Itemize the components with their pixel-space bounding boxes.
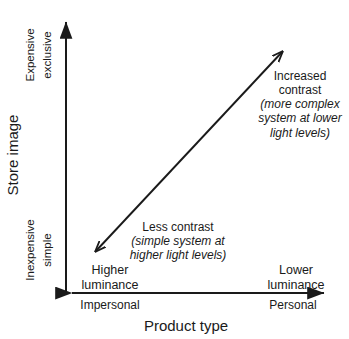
x-axis-tick-lower-luminance: Lower luminance bbox=[268, 263, 325, 293]
x-axis-tick-higher-luminance-line2: luminance bbox=[82, 278, 139, 293]
annotation-increased-contrast-line5: light levels) bbox=[258, 126, 341, 140]
y-axis-tick-inexpensive-line1: Inexpensive bbox=[24, 207, 38, 293]
annotation-increased-contrast-line3: (more complex bbox=[258, 97, 341, 111]
x-axis-tick-lower-luminance-line1: Lower bbox=[268, 263, 325, 278]
x-axis-title: Product type bbox=[144, 317, 228, 335]
x-axis-tick-lower-luminance-line2: luminance bbox=[268, 278, 325, 293]
y-axis-tick-expensive-line1: Expensive bbox=[24, 12, 38, 98]
annotation-less-contrast: Less contrast (simple system at higher l… bbox=[130, 220, 227, 262]
annotation-increased-contrast-line1: Increased bbox=[258, 69, 341, 83]
y-axis-tick-inexpensive-line2: simple bbox=[41, 207, 55, 293]
annotation-less-contrast-line2: (simple system at bbox=[130, 234, 227, 248]
annotation-less-contrast-line1: Less contrast bbox=[130, 220, 227, 234]
annotation-increased-contrast: Increased contrast (more complex system … bbox=[258, 69, 341, 140]
annotation-increased-contrast-line4: system at lower bbox=[258, 111, 341, 125]
annotation-increased-contrast-line2: contrast bbox=[258, 83, 341, 97]
y-axis-title: Store image bbox=[4, 95, 22, 215]
y-axis-tick-expensive-line2: exclusive bbox=[41, 12, 55, 98]
x-axis-tick-higher-luminance-line1: Higher bbox=[82, 263, 139, 278]
annotation-less-contrast-line3: higher light levels) bbox=[130, 248, 227, 262]
x-axis-tick-higher-luminance: Higher luminance bbox=[82, 263, 139, 293]
diagram-canvas: Store image Expensive exclusive Inexpens… bbox=[0, 0, 349, 339]
x-axis-tick-personal: Personal bbox=[269, 298, 316, 312]
x-axis-tick-impersonal: Impersonal bbox=[80, 298, 139, 312]
